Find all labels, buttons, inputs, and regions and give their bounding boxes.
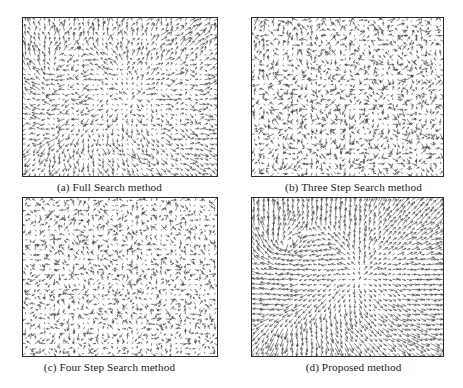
panel-d-caption: (d) Proposed method (244, 361, 463, 373)
panel-c-caption: (c) Four Step Search method (0, 361, 219, 373)
panel-d-quiver-field (252, 198, 443, 356)
panel-b-quiver-field (252, 18, 443, 176)
panel-d-plot-frame (251, 197, 444, 357)
panel-b-plot-frame (251, 17, 444, 177)
panel-b-caption: (b) Three Step Search method (244, 181, 463, 193)
panel-c-plot-frame (22, 197, 218, 357)
panel-c-quiver-field (23, 198, 217, 356)
panel-a-quiver-field (23, 18, 217, 176)
panel-a-caption: (a) Full Search method (0, 181, 219, 193)
figure-root: (a) Full Search method (b) Three Step Se… (0, 0, 463, 388)
panel-a-plot-frame (22, 17, 218, 177)
